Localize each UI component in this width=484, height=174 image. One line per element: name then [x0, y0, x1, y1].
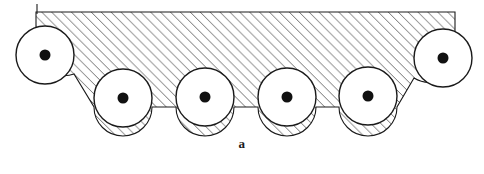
roller-hub-icon	[282, 92, 293, 103]
roller-hub-icon	[438, 53, 449, 64]
roller-right-end[interactable]	[414, 29, 472, 87]
figure-label: a	[0, 136, 484, 152]
roller-left-end[interactable]	[16, 26, 74, 84]
roller-hub-icon	[118, 93, 129, 104]
roller-lower-4[interactable]	[339, 67, 397, 125]
roller-hub-icon	[200, 92, 211, 103]
roller-lower-2[interactable]	[176, 68, 234, 126]
roller-hub-icon	[363, 91, 374, 102]
roller-hub-icon	[40, 50, 51, 61]
figure-container: a	[0, 0, 484, 174]
roller-lower-1[interactable]	[94, 69, 152, 127]
roller-lower-3[interactable]	[258, 68, 316, 126]
